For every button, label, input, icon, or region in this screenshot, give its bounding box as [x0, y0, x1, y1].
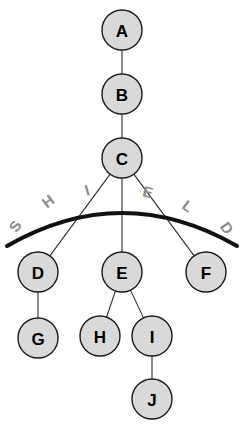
tree-node-h[interactable]: H — [80, 316, 120, 356]
tree-node-a[interactable]: A — [102, 10, 142, 50]
tree-node-i[interactable]: I — [132, 316, 172, 356]
shield-arc-letter-i-2: I — [83, 181, 92, 198]
tree-edge-e-i — [130, 290, 143, 318]
shield-arc-letter-d-5: D — [217, 219, 237, 238]
node-circle-d[interactable] — [18, 252, 58, 292]
node-circle-f[interactable] — [186, 252, 226, 292]
tree-diagram-canvas: ABCDEFGHIJ SHIELD — [0, 0, 244, 427]
tree-node-d[interactable]: D — [18, 252, 58, 292]
node-circle-g[interactable] — [18, 318, 58, 358]
tree-node-f[interactable]: F — [186, 252, 226, 292]
node-circle-e[interactable] — [102, 252, 142, 292]
node-circle-i[interactable] — [132, 316, 172, 356]
tree-node-e[interactable]: E — [102, 252, 142, 292]
shield-arc-letter-l-4: L — [179, 196, 196, 215]
node-circle-j[interactable] — [132, 379, 172, 419]
node-circle-c[interactable] — [102, 138, 142, 178]
node-circle-h[interactable] — [80, 316, 120, 356]
tree-edge-e-h — [107, 291, 116, 317]
tree-node-g[interactable]: G — [18, 318, 58, 358]
tree-node-j[interactable]: J — [132, 379, 172, 419]
tree-node-b[interactable]: B — [102, 74, 142, 114]
shield-arc-letter-s-0: S — [5, 217, 25, 235]
tree-node-c[interactable]: C — [102, 138, 142, 178]
tree-diagram: ABCDEFGHIJ SHIELD — [0, 0, 244, 427]
node-circle-a[interactable] — [102, 10, 142, 50]
node-circle-b[interactable] — [102, 74, 142, 114]
shield-arc-letter-h-1: H — [38, 191, 57, 211]
shield-arc-letter-e-3: E — [141, 183, 155, 202]
